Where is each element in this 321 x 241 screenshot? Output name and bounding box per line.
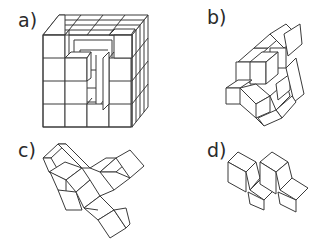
- piece-c: [43, 144, 144, 238]
- piece-b: [226, 24, 304, 126]
- assembled-cube: [43, 15, 148, 127]
- piece-d: [228, 152, 308, 212]
- diagram-canvas: [0, 0, 321, 241]
